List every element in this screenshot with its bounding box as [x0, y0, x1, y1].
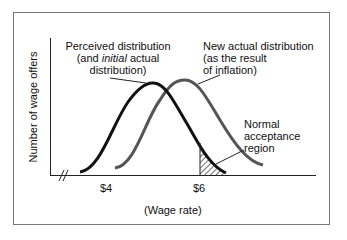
perceived-label: Perceived distribution (and initial actu…	[58, 40, 178, 76]
normal-pointer	[216, 150, 244, 164]
x-tick-4: $4	[100, 182, 112, 194]
y-axis-label: Number of wage offers	[27, 51, 39, 162]
x-tick-6: $6	[193, 182, 205, 194]
new-distribution-curve	[115, 80, 263, 168]
new-distribution-label: New actual distribution (as the result o…	[203, 40, 314, 76]
normal-acceptance-label: Normal acceptance region	[244, 118, 300, 154]
new-pointer	[198, 75, 220, 84]
x-axis-label: (Wage rate)	[144, 204, 202, 216]
perceived-pointer	[110, 78, 146, 83]
